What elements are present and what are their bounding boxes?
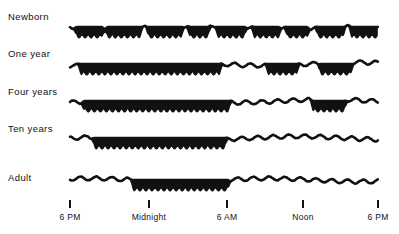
axis-label-midnight: Midnight <box>132 212 167 222</box>
axis-tick-midnight <box>148 200 150 208</box>
axis-label-6am: 6 AM <box>217 212 238 222</box>
axis-tick-6am <box>226 200 228 208</box>
axis-label-noon: Noon <box>292 212 314 222</box>
axis-tick-6pm-end <box>377 200 379 208</box>
axis-label-6pm-start: 6 PM <box>59 212 80 222</box>
axis-label-6pm-end: 6 PM <box>367 212 388 222</box>
axis-tick-noon <box>302 200 304 208</box>
sleep-wave-traces <box>0 0 399 200</box>
sleep-cycle-chart: Newborn One year Four years Ten years Ad… <box>0 0 399 234</box>
axis-tick-6pm-start <box>69 200 71 208</box>
